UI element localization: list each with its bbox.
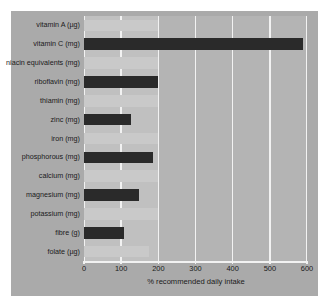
category-label: phosphorous (mg) (22, 153, 80, 161)
x-tick-mark (83, 261, 84, 264)
bar-row (84, 152, 307, 164)
bar-light (84, 246, 149, 258)
x-tick-mark (158, 261, 159, 264)
x-tick-mark (195, 261, 196, 264)
bar-row (84, 208, 307, 220)
category-label: riboflavin (mg) (34, 78, 80, 86)
x-tick-mark (120, 261, 121, 264)
bar-light (84, 170, 158, 182)
x-tick-mark (269, 261, 270, 264)
bar-row (84, 38, 307, 50)
category-label: thiamin (mg) (40, 97, 80, 105)
x-tick-label: 300 (189, 264, 201, 273)
category-label: vitamin A (µg) (36, 21, 80, 29)
bar-light (84, 95, 158, 107)
bar-row (84, 246, 307, 258)
category-label: potassium (mg) (30, 210, 80, 218)
bar-row (84, 57, 307, 69)
bar-row (84, 189, 307, 201)
x-tick-label: 400 (226, 264, 238, 273)
bar-row (84, 114, 307, 126)
x-tick-mark (306, 261, 307, 264)
x-tick-label: 100 (115, 264, 127, 273)
category-label: folate (µg) (47, 248, 80, 256)
figure-panel: vitamin A (µg)vitamin C (mg)niacin equiv… (11, 11, 318, 296)
x-tick-label: 600 (301, 264, 313, 273)
bar-row (84, 95, 307, 107)
bar-row (84, 227, 307, 239)
category-label: calcium (mg) (39, 172, 80, 180)
x-tick-mark (232, 261, 233, 264)
bar-light (84, 133, 158, 145)
bar-dark (84, 189, 139, 201)
plot-area (84, 16, 307, 261)
bar-row (84, 76, 307, 88)
bar-dark (84, 152, 153, 164)
category-label: vitamin C (mg) (33, 40, 80, 48)
category-label: iron (mg) (51, 135, 80, 143)
category-label: fibre (g) (55, 229, 80, 237)
x-tick-label: 500 (264, 264, 276, 273)
bar-light (84, 57, 158, 69)
bar-dark (84, 76, 158, 88)
chart-root: vitamin A (µg)vitamin C (mg)niacin equiv… (0, 0, 329, 307)
bar-dark (84, 38, 303, 50)
bar-light (84, 20, 158, 32)
x-tick-label: 200 (152, 264, 164, 273)
bar-row (84, 20, 307, 32)
bar-dark (84, 227, 124, 239)
x-tick-label: 0 (82, 264, 86, 273)
bar-row (84, 133, 307, 145)
category-label: zinc (mg) (50, 116, 80, 124)
x-axis-title: % recommended daily intake (84, 277, 308, 286)
category-axis-labels: vitamin A (µg)vitamin C (mg)niacin equiv… (11, 11, 84, 261)
bar-dark (84, 114, 131, 126)
category-label: magnesium (mg) (26, 191, 80, 199)
bar-light (84, 208, 158, 220)
bar-row (84, 170, 307, 182)
category-label: niacin equivalents (mg) (6, 59, 80, 67)
